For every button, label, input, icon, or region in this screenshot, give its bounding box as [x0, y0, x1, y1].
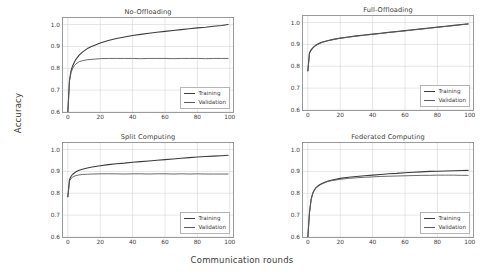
- x-tick-label: 60: [161, 239, 168, 245]
- y-tick-label: 1.0: [51, 22, 60, 28]
- legend: TrainingValidation: [420, 212, 470, 234]
- x-tick-label: 20: [337, 112, 344, 118]
- legend-label: Training: [198, 215, 220, 222]
- series-line-training: [68, 155, 228, 196]
- y-tick-label: 0.8: [291, 63, 300, 69]
- legend-swatch-training-icon: [184, 93, 195, 94]
- legend-label: Validation: [198, 99, 226, 106]
- x-tick-label: 40: [369, 239, 376, 245]
- plot-area: 0.60.70.80.91.0020406080100TrainingValid…: [62, 17, 234, 113]
- plot-area: 0.60.70.80.91.0020406080100TrainingValid…: [302, 142, 474, 238]
- y-tick-label: 0.9: [51, 43, 60, 49]
- panel-federated-computing: Federated Computing 0.60.70.80.91.002040…: [302, 133, 474, 251]
- legend-item-validation: Validation: [184, 224, 226, 231]
- x-tick-label: 60: [401, 239, 408, 245]
- legend-item-training: Training: [424, 88, 466, 95]
- legend-swatch-training-icon: [424, 91, 435, 92]
- legend-label: Validation: [198, 224, 226, 231]
- x-tick-label: 80: [194, 239, 201, 245]
- legend-label: Training: [438, 88, 460, 95]
- panel-full-offloading: Full-Offloading 0.60.70.80.91.0020406080…: [302, 6, 474, 124]
- y-tick-label: 0.9: [291, 168, 300, 174]
- x-tick-label: 100: [464, 239, 475, 245]
- panel-no-offloading: No-Offloading 0.60.70.80.91.002040608010…: [62, 8, 234, 126]
- x-tick-label: 80: [434, 112, 441, 118]
- panel-split-computing: Split Computing 0.60.70.80.91.0020406080…: [62, 133, 234, 251]
- y-axis-label: Accuracy: [13, 73, 23, 153]
- legend-swatch-validation-icon: [184, 227, 195, 228]
- x-tick-label: 20: [337, 239, 344, 245]
- x-tick-label: 100: [224, 114, 235, 120]
- legend-item-validation: Validation: [184, 99, 226, 106]
- legend-swatch-validation-icon: [424, 100, 435, 101]
- x-tick-label: 60: [401, 112, 408, 118]
- y-tick-label: 0.6: [291, 234, 300, 240]
- x-tick-label: 40: [369, 112, 376, 118]
- legend-label: Validation: [438, 97, 466, 104]
- y-tick-label: 1.0: [291, 20, 300, 26]
- panel-title: Split Computing: [62, 133, 234, 141]
- y-tick-label: 0.8: [51, 190, 60, 196]
- legend: TrainingValidation: [420, 85, 470, 107]
- x-tick-label: 40: [129, 239, 136, 245]
- legend-label: Training: [198, 90, 220, 97]
- legend-swatch-training-icon: [424, 218, 435, 219]
- x-tick-label: 60: [161, 114, 168, 120]
- legend-item-validation: Validation: [424, 97, 466, 104]
- x-tick-label: 20: [97, 239, 104, 245]
- y-tick-label: 1.0: [51, 147, 60, 153]
- series-line-training: [308, 24, 468, 71]
- y-tick-label: 0.8: [291, 190, 300, 196]
- x-tick-label: 80: [434, 239, 441, 245]
- plot-area: 0.60.70.80.91.0020406080100TrainingValid…: [302, 15, 474, 111]
- panel-title: Federated Computing: [302, 133, 474, 141]
- y-tick-label: 0.6: [51, 109, 60, 115]
- x-tick-label: 0: [66, 239, 70, 245]
- y-tick-label: 0.6: [51, 234, 60, 240]
- y-tick-label: 0.6: [291, 107, 300, 113]
- legend-label: Validation: [438, 224, 466, 231]
- x-tick-label: 20: [97, 114, 104, 120]
- y-tick-label: 0.7: [51, 212, 60, 218]
- x-tick-label: 100: [224, 239, 235, 245]
- panel-title: No-Offloading: [62, 8, 234, 16]
- x-axis-label: Communication rounds: [0, 255, 484, 265]
- x-tick-label: 0: [66, 114, 70, 120]
- legend-item-training: Training: [184, 90, 226, 97]
- y-tick-label: 0.7: [291, 85, 300, 91]
- y-tick-label: 0.9: [291, 41, 300, 47]
- y-tick-label: 0.9: [51, 168, 60, 174]
- legend: TrainingValidation: [180, 212, 230, 234]
- y-tick-label: 0.8: [51, 65, 60, 71]
- legend-item-training: Training: [424, 215, 466, 222]
- legend: TrainingValidation: [180, 87, 230, 109]
- legend-item-validation: Validation: [424, 224, 466, 231]
- y-tick-label: 0.7: [291, 212, 300, 218]
- plot-area: 0.60.70.80.91.0020406080100TrainingValid…: [62, 142, 234, 238]
- figure-accuracy-vs-rounds: Accuracy Communication rounds No-Offload…: [0, 0, 484, 279]
- legend-swatch-validation-icon: [424, 227, 435, 228]
- x-tick-label: 0: [306, 112, 310, 118]
- legend-item-training: Training: [184, 215, 226, 222]
- y-tick-label: 0.7: [51, 87, 60, 93]
- series-line-validation: [308, 24, 468, 71]
- legend-swatch-validation-icon: [184, 102, 195, 103]
- y-tick-label: 1.0: [291, 147, 300, 153]
- x-tick-label: 40: [129, 114, 136, 120]
- x-tick-label: 100: [464, 112, 475, 118]
- x-tick-label: 80: [194, 114, 201, 120]
- legend-swatch-training-icon: [184, 218, 195, 219]
- panel-title: Full-Offloading: [302, 6, 474, 14]
- legend-label: Training: [438, 215, 460, 222]
- x-tick-label: 0: [306, 239, 310, 245]
